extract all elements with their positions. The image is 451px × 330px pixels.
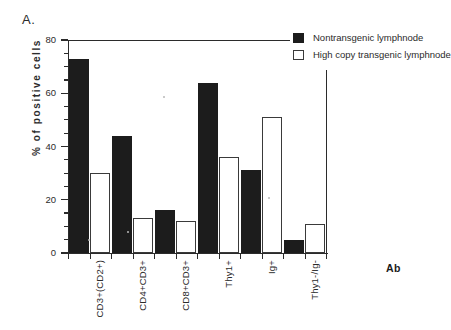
x-axis-category-label: CD4+CD3+ xyxy=(137,260,148,311)
scan-speck xyxy=(88,239,90,241)
x-axis-title: Ab xyxy=(386,262,401,274)
bar xyxy=(69,59,89,253)
y-axis-minor-tick xyxy=(64,186,68,187)
y-axis-tick-label: 60 xyxy=(32,88,56,98)
legend-label: High copy transgenic lymphnode xyxy=(313,50,451,60)
y-axis-tick-label: 40 xyxy=(32,142,56,152)
y-axis-minor-tick xyxy=(64,159,68,160)
x-axis-tick xyxy=(176,254,177,259)
legend: Nontransgenic lymphnode High copy transg… xyxy=(293,30,451,64)
y-axis-minor-tick xyxy=(64,106,68,107)
top-axis-line xyxy=(68,40,290,41)
right-axis-line xyxy=(326,70,327,254)
y-axis-tick xyxy=(61,93,68,94)
x-axis-tick xyxy=(262,254,263,259)
y-axis-tick xyxy=(61,252,68,253)
legend-swatch-open-icon xyxy=(293,50,304,60)
y-axis-minor-tick xyxy=(64,119,68,120)
bar xyxy=(262,117,282,253)
x-axis-tick xyxy=(283,254,284,259)
y-axis-tick xyxy=(61,199,68,200)
y-axis-minor-tick xyxy=(64,226,68,227)
y-axis-tick xyxy=(61,146,68,147)
y-axis-minor-tick xyxy=(64,173,68,174)
x-axis-category-label: Thy1+ xyxy=(223,260,234,288)
bar xyxy=(112,136,132,253)
bar xyxy=(219,157,239,253)
bar xyxy=(305,224,325,253)
legend-label: Nontransgenic lymphnode xyxy=(313,33,423,43)
legend-swatch-filled-icon xyxy=(293,33,304,43)
x-axis-category-label: Thy1-/Ig- xyxy=(309,260,320,300)
y-axis-tick-label: 80 xyxy=(32,35,56,45)
x-axis-category-label: CD3+(CD2+) xyxy=(94,260,105,317)
y-axis-minor-tick xyxy=(64,133,68,134)
bar xyxy=(155,210,175,253)
y-axis-tick xyxy=(61,39,68,40)
y-axis-tick-label: 0 xyxy=(32,248,56,258)
bar xyxy=(241,170,261,253)
x-axis-category-label: CD8+CD3+ xyxy=(180,260,191,311)
bar xyxy=(198,83,218,253)
x-axis-category-label: Ig+ xyxy=(266,260,277,274)
bar xyxy=(176,221,196,253)
x-axis-tick xyxy=(197,254,198,259)
x-axis-tick xyxy=(90,254,91,259)
scan-speck xyxy=(127,231,129,233)
bar xyxy=(133,218,153,253)
y-axis-minor-tick xyxy=(64,79,68,80)
x-axis-tick xyxy=(68,254,69,259)
scan-speck xyxy=(163,96,165,98)
x-axis-tick xyxy=(133,254,134,259)
x-axis-tick xyxy=(111,254,112,259)
x-axis-tick xyxy=(154,254,155,259)
y-axis-minor-tick xyxy=(64,53,68,54)
bar xyxy=(284,240,304,253)
bar xyxy=(90,173,110,253)
x-axis-tick xyxy=(240,254,241,259)
scan-speck xyxy=(268,197,270,199)
y-axis-minor-tick xyxy=(64,212,68,213)
y-axis-minor-tick xyxy=(64,66,68,67)
legend-item: Nontransgenic lymphnode xyxy=(293,30,451,45)
y-axis-minor-tick xyxy=(64,239,68,240)
x-axis-tick xyxy=(326,254,327,259)
legend-item: High copy transgenic lymphnode xyxy=(293,47,451,62)
x-axis-tick xyxy=(305,254,306,259)
x-axis-tick xyxy=(219,254,220,259)
y-axis-tick-label: 20 xyxy=(32,195,56,205)
